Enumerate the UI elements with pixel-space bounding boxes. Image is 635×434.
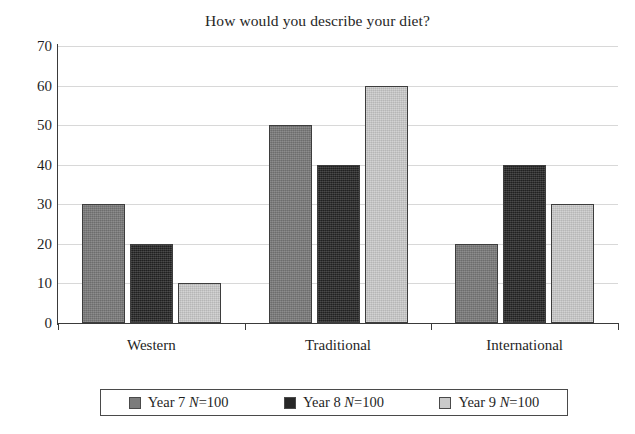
legend-item[interactable]: Year 7 N=100 <box>129 394 229 411</box>
legend-label: Year 8 N=100 <box>303 394 384 411</box>
bar <box>365 86 408 323</box>
legend-swatch-icon <box>129 397 141 409</box>
x-axis-category-label: Traditional <box>245 337 432 354</box>
y-tick-label: 0 <box>8 315 52 332</box>
y-tick-label: 10 <box>8 275 52 292</box>
bar <box>455 244 498 323</box>
x-axis-category-label: International <box>431 337 618 354</box>
bar <box>82 204 125 323</box>
legend-swatch-icon <box>284 397 296 409</box>
y-tick-label: 30 <box>8 196 52 213</box>
y-tick-label: 60 <box>8 77 52 94</box>
legend-item[interactable]: Year 9 N=100 <box>439 394 539 411</box>
x-tick-mark <box>245 323 246 330</box>
bar <box>551 204 594 323</box>
bar <box>178 283 221 323</box>
y-axis-tick-labels: 706050403020100 <box>0 46 52 323</box>
bar <box>503 165 546 323</box>
legend-label: Year 7 N=100 <box>148 394 229 411</box>
gridline <box>58 125 618 126</box>
legend-label: Year 9 N=100 <box>458 394 539 411</box>
y-tick-label: 20 <box>8 235 52 252</box>
gridline <box>58 86 618 87</box>
legend-item[interactable]: Year 8 N=100 <box>284 394 384 411</box>
legend-swatch-icon <box>439 397 451 409</box>
x-axis-category-label: Western <box>58 337 245 354</box>
bar <box>269 125 312 323</box>
chart-title: How would you describe your diet? <box>0 12 635 30</box>
legend: Year 7 N=100Year 8 N=100Year 9 N=100 <box>100 389 568 416</box>
y-tick-label: 50 <box>8 117 52 134</box>
y-tick-label: 70 <box>8 38 52 55</box>
x-tick-mark <box>431 323 432 330</box>
gridline <box>58 323 618 324</box>
bar <box>130 244 173 323</box>
x-tick-mark <box>618 323 619 330</box>
gridline <box>58 46 618 47</box>
y-tick-label: 40 <box>8 156 52 173</box>
x-tick-mark <box>58 323 59 330</box>
bar-chart: How would you describe your diet? 706050… <box>0 0 635 434</box>
plot-area <box>58 46 618 323</box>
bar <box>317 165 360 323</box>
